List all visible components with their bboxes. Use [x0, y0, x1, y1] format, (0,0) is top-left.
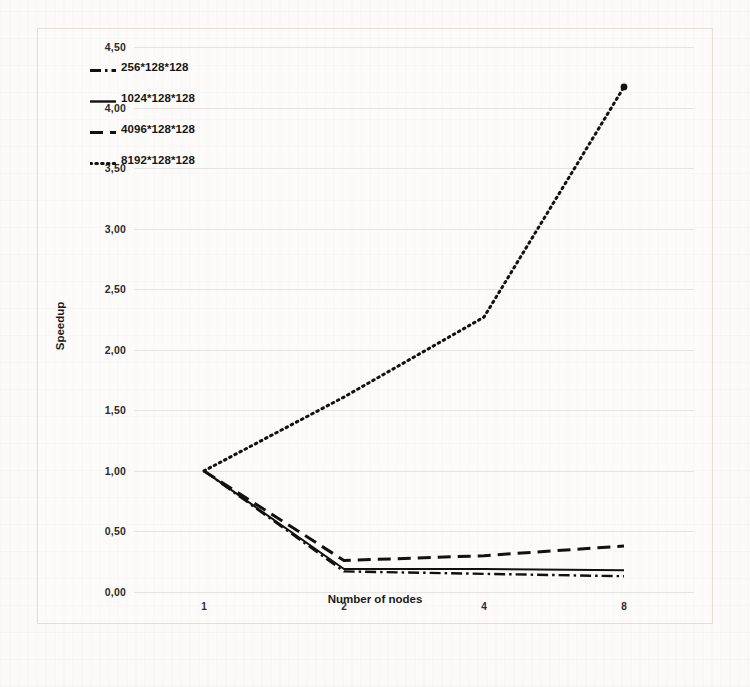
legend-item[interactable]: 1024*128*128 — [90, 92, 195, 104]
series-line — [204, 471, 624, 576]
series-line — [204, 471, 624, 570]
x-axis-title: Number of nodes — [38, 593, 712, 605]
x-axis-tick-label: 2 — [341, 601, 347, 612]
legend-line-swatch — [90, 62, 116, 73]
gridline — [134, 592, 694, 593]
legend-item-label: 256*128*128 — [121, 61, 189, 73]
y-axis-tick-label: 2,00 — [105, 344, 126, 356]
y-axis-title: Speedup — [54, 302, 66, 351]
legend-line-swatch — [90, 93, 116, 104]
y-axis-tick-label: 4,50 — [105, 41, 126, 53]
x-axis-tick-label: 4 — [481, 601, 487, 612]
x-axis-tick-label: 8 — [621, 601, 627, 612]
chart-series-canvas — [134, 47, 694, 592]
legend-item-label: 4096*128*128 — [121, 123, 195, 135]
y-axis-tick-label: 1,00 — [105, 465, 126, 477]
legend-item[interactable]: 4096*128*128 — [90, 123, 195, 135]
series-line — [204, 87, 624, 471]
y-axis-tick-label: 2,50 — [105, 283, 126, 295]
legend-line-swatch — [90, 155, 116, 166]
x-axis-tick-label: 1 — [201, 601, 207, 612]
chart-legend: 256*128*1281024*128*1284096*128*1288192*… — [90, 61, 195, 166]
chart-figure: Speedup Number of nodes 0,000,501,001,50… — [37, 28, 713, 624]
legend-item[interactable]: 8192*128*128 — [90, 154, 195, 166]
series-endpoint-marker — [621, 84, 628, 91]
y-axis-tick-label: 0,00 — [105, 586, 126, 598]
legend-item-label: 1024*128*128 — [121, 92, 195, 104]
legend-item-label: 8192*128*128 — [121, 154, 195, 166]
y-axis-tick-label: 3,00 — [105, 223, 126, 235]
y-axis-tick-label: 1,50 — [105, 404, 126, 416]
legend-line-swatch — [90, 124, 116, 135]
plot-area: 0,000,501,001,502,002,503,003,504,004,50… — [134, 47, 694, 592]
legend-item[interactable]: 256*128*128 — [90, 61, 195, 73]
y-axis-tick-label: 0,50 — [105, 525, 126, 537]
